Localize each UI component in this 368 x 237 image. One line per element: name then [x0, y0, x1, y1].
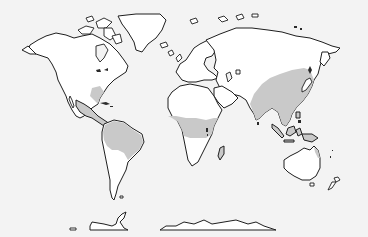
antarctica — [70, 212, 276, 230]
world-map — [0, 0, 368, 237]
south-america — [102, 120, 144, 200]
asia — [206, 28, 340, 142]
north-america — [22, 14, 168, 130]
australia — [284, 146, 340, 190]
